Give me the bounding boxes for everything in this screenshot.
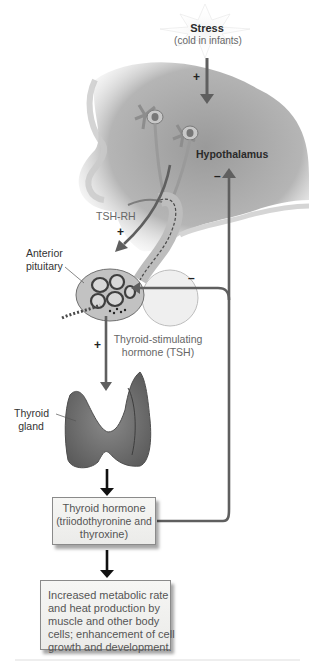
tsh-label-line1: Thyroid-stimulating [112,333,204,346]
thyroid-label-line2: gland [14,420,48,433]
diagram-artwork [0,0,309,663]
hormone-to-effect-arrow [100,550,114,578]
thyroid-to-hormone-arrow [100,469,114,496]
anterior-pituitary-line2: pituitary [26,260,63,273]
hormone-box-line3: thyroxine) [53,528,155,541]
effect-box-line2: and heat production by [48,602,170,615]
stress-sublabel: (cold in infants) [166,34,250,47]
hormone-box-line2: (triiodothyronine and [53,515,155,528]
tsh-plus-sign: + [94,339,101,351]
tsh-label-line2: hormone (TSH) [112,346,204,359]
effect-box: Increased metabolic rate and heat produc… [40,580,171,650]
tshrh-label: TSH-RH [96,210,136,223]
effect-box-line3: muscle and other body [48,615,170,628]
tsh-arrow [100,316,112,391]
thyroid-gland-label: Thyroid gland [14,407,48,433]
anterior-pituitary-leader [65,267,84,283]
pituitary-gland [62,269,198,326]
hypothalamus-minus-sign: – [214,170,221,182]
stress-plus-sign: + [193,71,200,83]
effect-box-line4: cells; enhancement of cell [48,628,170,641]
hormone-box-line1: Thyroid hormone [53,502,155,515]
thyroid-label-line1: Thyroid [14,407,48,420]
effect-box-line1: Increased metabolic rate [48,589,170,602]
tsh-label: Thyroid-stimulating hormone (TSH) [112,333,204,359]
stress-label-line2: (cold in infants) [174,35,242,46]
pituitary-minus-sign: – [188,272,195,284]
anterior-pituitary-label: Anterior pituitary [26,247,63,273]
thyroid-hormone-box: Thyroid hormone (triiodothyronine and th… [52,497,156,545]
effect-box-line5: growth and development. [48,641,170,654]
tshrh-plus-sign: + [117,226,124,238]
hypothalamus-label: Hypothalamus [196,148,268,161]
anterior-pituitary-line1: Anterior [26,247,63,260]
